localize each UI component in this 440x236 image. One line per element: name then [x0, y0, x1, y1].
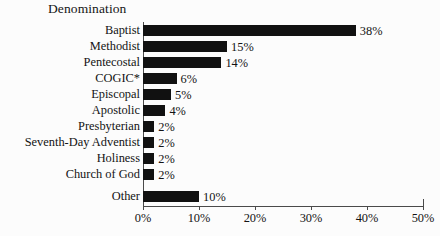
- category-label: Seventh-Day Adventist: [0, 135, 140, 149]
- bar-row: Seventh-Day Adventist 2%: [0, 135, 440, 150]
- plot-area: Baptist 38% Methodist 15% Pentecostal 14…: [0, 0, 440, 236]
- bar-wrapper: 14%: [143, 57, 221, 68]
- category-label: Pentecostal: [0, 55, 140, 69]
- value-label: 10%: [199, 190, 226, 204]
- x-axis-tick-label: 0%: [135, 211, 152, 225]
- x-axis-tick-label: 10%: [188, 211, 211, 225]
- x-axis-tick: [311, 206, 312, 210]
- bar: [143, 73, 177, 84]
- category-label: Episcopal: [0, 87, 140, 101]
- bar: [143, 25, 356, 36]
- bar-wrapper: 2%: [143, 121, 154, 132]
- bar-row: Other 10%: [0, 189, 440, 204]
- bar: [143, 169, 154, 180]
- bar-wrapper: 10%: [143, 191, 199, 202]
- category-label: Other: [0, 189, 140, 203]
- bar: [143, 137, 154, 148]
- x-axis-tick: [367, 206, 368, 210]
- bar-wrapper: 38%: [143, 25, 356, 36]
- bar: [143, 89, 171, 100]
- bar-wrapper: 4%: [143, 105, 165, 116]
- bar-wrapper: 2%: [143, 153, 154, 164]
- value-label: 5%: [171, 88, 192, 102]
- bar-row: Episcopal 5%: [0, 87, 440, 102]
- bar-wrapper: 5%: [143, 89, 171, 100]
- value-label: 15%: [227, 40, 254, 54]
- value-label: 38%: [356, 24, 383, 38]
- bar: [143, 41, 227, 52]
- x-axis-tick: [199, 206, 200, 210]
- value-label: 14%: [221, 56, 248, 70]
- x-axis-tick: [255, 206, 256, 210]
- category-label: Baptist: [0, 23, 140, 37]
- bar-wrapper: 15%: [143, 41, 227, 52]
- bar: [143, 57, 221, 68]
- category-label: Church of God: [0, 167, 140, 181]
- bar-row: Church of God 2%: [0, 167, 440, 182]
- bar-row: Baptist 38%: [0, 23, 440, 38]
- bar-row: COGIC* 6%: [0, 71, 440, 86]
- x-axis-tick: [423, 206, 424, 210]
- value-label: 2%: [154, 120, 175, 134]
- category-label: Methodist: [0, 39, 140, 53]
- bar-row: Presbyterian 2%: [0, 119, 440, 134]
- value-label: 2%: [154, 168, 175, 182]
- bar-row: Methodist 15%: [0, 39, 440, 54]
- bar: [143, 191, 199, 202]
- value-label: 2%: [154, 152, 175, 166]
- x-axis-line: [143, 206, 424, 207]
- category-label: COGIC*: [0, 71, 140, 85]
- bar: [143, 121, 154, 132]
- x-axis-tick-label: 40%: [356, 211, 379, 225]
- bar: [143, 105, 165, 116]
- value-label: 6%: [177, 72, 198, 86]
- bar: [143, 153, 154, 164]
- denomination-bar-chart: Denomination Baptist 38% Methodist 15% P…: [0, 0, 440, 236]
- bar-row: Pentecostal 14%: [0, 55, 440, 70]
- category-label: Holiness: [0, 151, 140, 165]
- bar-wrapper: 6%: [143, 73, 177, 84]
- bar-wrapper: 2%: [143, 169, 154, 180]
- category-label: Apostolic: [0, 103, 140, 117]
- bar-wrapper: 2%: [143, 137, 154, 148]
- value-label: 2%: [154, 136, 175, 150]
- x-axis-tick-label: 20%: [244, 211, 267, 225]
- bar-row: Apostolic 4%: [0, 103, 440, 118]
- x-axis-tick-label: 30%: [300, 211, 323, 225]
- x-axis-tick-label: 50%: [412, 211, 435, 225]
- bar-row: Holiness 2%: [0, 151, 440, 166]
- x-axis-tick: [143, 206, 144, 210]
- category-label: Presbyterian: [0, 119, 140, 133]
- value-label: 4%: [165, 104, 186, 118]
